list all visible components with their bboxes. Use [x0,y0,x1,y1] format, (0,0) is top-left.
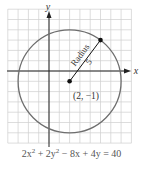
circle-point [98,38,103,43]
center-label: (2, −1) [73,91,99,102]
x-axis-arrow-icon [124,69,131,74]
radius-value: 5 [83,56,94,66]
caption-part: 2x [22,148,32,159]
center-point [67,79,72,84]
equation-caption: 2x2 + 2y2 − 8x + 4y = 40 [0,147,143,159]
x-axis-label: x [133,65,139,76]
circle-graph: y x Radius 5 (2, −1) [0,0,143,169]
caption-part: − 8x + 4y = 40 [59,148,121,159]
y-axis-label: y [45,1,51,12]
y-axis-arrow-icon [47,11,52,18]
caption-part: + 2y [35,148,56,159]
